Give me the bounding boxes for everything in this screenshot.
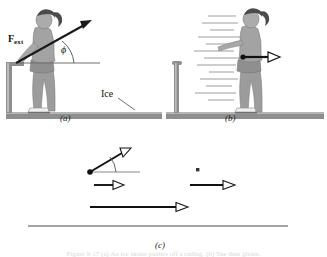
rail-post-highlight-b <box>175 63 177 112</box>
force-arrow-head-a <box>80 20 92 29</box>
skate-blade-a <box>28 112 50 114</box>
ice-leader-line <box>118 98 135 110</box>
caption-c: (c) <box>155 240 165 250</box>
skater-legs-b <box>240 70 262 112</box>
skater-figure-b <box>218 8 269 113</box>
panel-c-artwork <box>0 128 327 240</box>
figure-root: Fext ϕ Ice <box>0 0 327 257</box>
panel-b: vcm <box>164 0 327 130</box>
motion-lines-b <box>194 16 240 100</box>
cm-dot-c <box>87 169 93 175</box>
force-arrow-head-c <box>120 148 131 157</box>
final-velocity-head-c <box>223 181 235 190</box>
initial-velocity-head-c <box>113 181 124 190</box>
final-velocity-arrow-c <box>190 181 235 190</box>
cm-dot-second-c <box>196 168 199 171</box>
force-arrow-shaft-c <box>90 153 122 172</box>
displacement-arrow-c <box>90 203 188 212</box>
skate-boot-a <box>28 108 49 112</box>
caption-a: (a) <box>60 113 71 123</box>
angle-label-a: ϕ <box>61 44 66 55</box>
cm-dot-b <box>240 54 245 59</box>
panel-c: Fext ϕ cm vcm, 0 vcm dcm x <box>0 128 327 240</box>
skater-arm-b <box>218 40 243 51</box>
caption-b: (b) <box>225 113 236 123</box>
velocity-arrow-head-b <box>268 52 280 62</box>
ice-label: Ice <box>101 88 113 99</box>
force-arrow-c <box>90 148 131 172</box>
displacement-head-c <box>176 203 188 212</box>
skater-legs-a <box>33 69 55 111</box>
skate-blade-b <box>235 112 257 114</box>
panel-a-artwork <box>0 0 164 130</box>
skate-boot-b <box>235 108 256 112</box>
initial-velocity-arrow-c <box>94 181 124 190</box>
rail-top-b <box>172 61 182 65</box>
force-label-a: Fext <box>8 33 23 45</box>
rail-post-highlight <box>7 63 9 112</box>
skater-figure-a <box>18 9 62 113</box>
bottom-caption-strip: Figure 9-17 (a) An ice skater pushes off… <box>0 250 327 257</box>
bottom-caption-text: Figure 9-17 (a) An ice skater pushes off… <box>0 250 327 257</box>
panel-b-artwork <box>164 0 327 130</box>
panel-a: Fext ϕ Ice <box>0 0 164 130</box>
